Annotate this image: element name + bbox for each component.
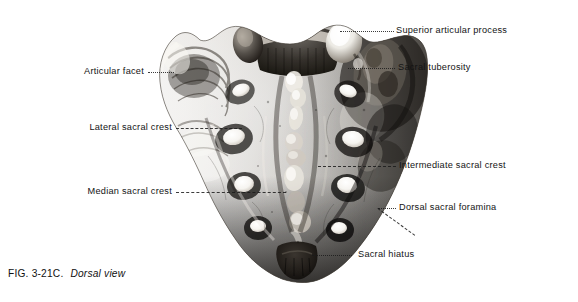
leader-sacral-hiatus bbox=[312, 255, 352, 256]
leader-intermediate-sacral-crest bbox=[318, 166, 396, 167]
label-lateral-sacral-crest: Lateral sacral crest bbox=[89, 123, 172, 132]
leader-superior-articular-process bbox=[340, 31, 394, 32]
figure-sacrum-dorsal: Superior articular process Sacral tubero… bbox=[0, 0, 578, 302]
label-median-sacral-crest: Median sacral crest bbox=[88, 187, 172, 196]
leader-dorsal-sacral-foramina bbox=[378, 208, 396, 209]
label-sacral-hiatus: Sacral hiatus bbox=[358, 250, 414, 259]
leader-sacral-tuberosity bbox=[348, 68, 395, 69]
leader-lateral-sacral-crest bbox=[176, 128, 242, 129]
leader-articular-facet bbox=[148, 72, 174, 73]
leader-median-sacral-crest bbox=[176, 192, 286, 193]
figure-view-name: Dorsal view bbox=[70, 268, 125, 279]
figure-caption: FIG. 3-21C.Dorsal view bbox=[8, 268, 125, 279]
label-superior-articular-process: Superior articular process bbox=[396, 26, 507, 35]
sacrum-illustration bbox=[148, 6, 444, 288]
figure-number: FIG. 3-21C. bbox=[8, 268, 63, 279]
label-articular-facet: Articular facet bbox=[84, 67, 144, 76]
label-dorsal-sacral-foramina: Dorsal sacral foramina bbox=[399, 203, 496, 212]
label-sacral-tuberosity: Sacral tuberosity bbox=[398, 63, 471, 72]
label-intermediate-sacral-crest: Intermediate sacral crest bbox=[399, 161, 506, 170]
